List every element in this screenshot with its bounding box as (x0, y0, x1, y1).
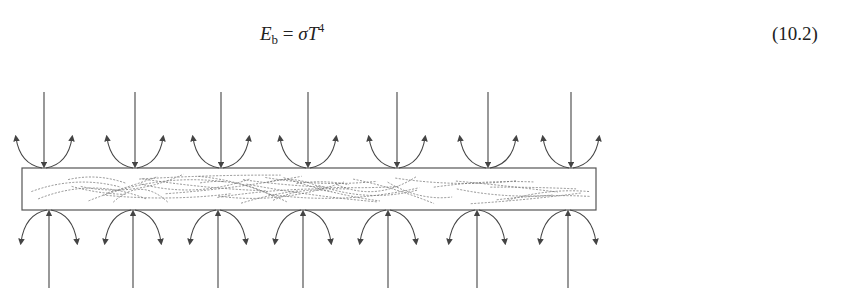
reflected-arrow-right (479, 210, 505, 242)
equation-stefan-boltzmann: Eb = σT4 (260, 23, 324, 45)
reflected-arrow-left (21, 210, 47, 242)
equation-lhs-subscript: b (272, 32, 279, 47)
reflected-arrow-left (280, 138, 306, 168)
reflected-arrow-left (460, 138, 486, 168)
reflected-arrow-left (369, 138, 395, 168)
reflected-arrow-left (193, 138, 219, 168)
reflected-arrow-right (137, 138, 163, 168)
reflected-arrow-left (16, 138, 42, 168)
equation-exponent: 4 (318, 21, 324, 35)
bottom-arrow-group (190, 210, 246, 288)
reflected-arrow-right (490, 138, 516, 168)
reflected-arrow-left (275, 210, 301, 242)
bottom-arrow-group (275, 210, 331, 288)
bottom-radiation-arrows (21, 210, 596, 288)
bottom-arrow-group (360, 210, 416, 288)
reflected-arrow-left (449, 210, 475, 242)
bottom-arrow-group (540, 210, 596, 288)
bottom-arrow-group (449, 210, 505, 288)
reflected-arrow-right (570, 210, 596, 242)
radiation-slab-diagram (0, 80, 841, 305)
reflected-arrow-right (46, 138, 72, 168)
top-arrow-group (16, 92, 72, 168)
bottom-arrow-group (21, 210, 77, 288)
reflected-arrow-right (305, 210, 331, 242)
reflected-arrow-right (135, 210, 161, 242)
equation-lhs-symbol: E (260, 23, 272, 44)
equation-number: (10.2) (772, 23, 818, 45)
reflected-arrow-left (190, 210, 216, 242)
reflected-arrow-right (399, 138, 425, 168)
equation-operator: = (283, 23, 294, 44)
reflected-arrow-left (105, 210, 131, 242)
reflected-arrow-right (223, 138, 249, 168)
top-arrow-group (460, 92, 516, 168)
top-arrow-group (369, 92, 425, 168)
reflected-arrow-right (573, 138, 599, 168)
reflected-arrow-left (540, 210, 566, 242)
reflected-arrow-right (390, 210, 416, 242)
reflected-arrow-right (310, 138, 336, 168)
reflected-arrow-right (220, 210, 246, 242)
equation-T: T (308, 23, 319, 44)
bottom-arrow-group (105, 210, 161, 288)
top-radiation-arrows (16, 92, 599, 168)
top-arrow-group (280, 92, 336, 168)
reflected-arrow-left (360, 210, 386, 242)
equation-sigma: σ (298, 23, 307, 44)
reflected-arrow-right (51, 210, 77, 242)
top-arrow-group (543, 92, 599, 168)
reflected-arrow-left (543, 138, 569, 168)
reflected-arrow-left (107, 138, 133, 168)
fibrous-slab (22, 168, 596, 210)
top-arrow-group (107, 92, 163, 168)
top-arrow-group (193, 92, 249, 168)
